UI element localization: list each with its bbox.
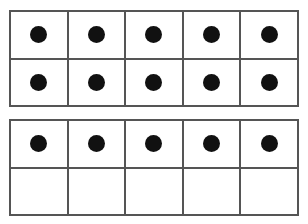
counter-dot-icon	[145, 74, 162, 91]
frame-cell[interactable]	[126, 169, 184, 217]
counter-dot-icon	[203, 26, 220, 43]
counter-dot-icon	[30, 74, 47, 91]
frame-cell[interactable]	[126, 121, 184, 169]
ten-frame-2	[9, 119, 299, 216]
frame-cell[interactable]	[241, 12, 299, 60]
counter-dot-icon	[30, 26, 47, 43]
frame-cell[interactable]	[241, 169, 299, 217]
frame-cell[interactable]	[126, 60, 184, 108]
frame-cell[interactable]	[11, 60, 69, 108]
frame-cell[interactable]	[184, 169, 242, 217]
frame-cell[interactable]	[241, 121, 299, 169]
frame-cell[interactable]	[69, 169, 127, 217]
ten-frames-canvas	[0, 0, 308, 224]
frame-cell[interactable]	[184, 121, 242, 169]
counter-dot-icon	[88, 74, 105, 91]
frame-cell[interactable]	[184, 60, 242, 108]
ten-frame-1	[9, 10, 299, 107]
counter-dot-icon	[203, 74, 220, 91]
counter-dot-icon	[145, 135, 162, 152]
frame-cell[interactable]	[69, 12, 127, 60]
frame-cell[interactable]	[241, 60, 299, 108]
counter-dot-icon	[203, 135, 220, 152]
counter-dot-icon	[145, 26, 162, 43]
counter-dot-icon	[88, 26, 105, 43]
frame-cell[interactable]	[69, 60, 127, 108]
frame-cell[interactable]	[11, 121, 69, 169]
frame-cell[interactable]	[69, 121, 127, 169]
frame-cell[interactable]	[11, 169, 69, 217]
frame-cell[interactable]	[126, 12, 184, 60]
frame-cell[interactable]	[184, 12, 242, 60]
counter-dot-icon	[88, 135, 105, 152]
counter-dot-icon	[261, 26, 278, 43]
frame-cell[interactable]	[11, 12, 69, 60]
counter-dot-icon	[261, 74, 278, 91]
counter-dot-icon	[261, 135, 278, 152]
counter-dot-icon	[30, 135, 47, 152]
